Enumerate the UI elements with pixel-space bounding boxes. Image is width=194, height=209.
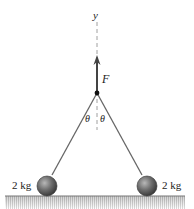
mass-right-label: 2 kg xyxy=(162,180,181,191)
mass-ball-right xyxy=(137,176,157,196)
force-arrow xyxy=(94,55,101,93)
pivot-point xyxy=(95,91,100,96)
angle-left-label: θ xyxy=(85,114,90,124)
ground xyxy=(5,196,185,209)
force-label: F xyxy=(102,73,109,85)
rope-right xyxy=(97,93,142,175)
mass-ball-left xyxy=(37,176,57,196)
rope-left xyxy=(52,93,97,175)
diagram-canvas xyxy=(0,0,194,209)
angle-right-label: θ xyxy=(100,114,105,124)
mass-left-label: 2 kg xyxy=(12,180,31,191)
y-axis-label: y xyxy=(93,10,98,21)
